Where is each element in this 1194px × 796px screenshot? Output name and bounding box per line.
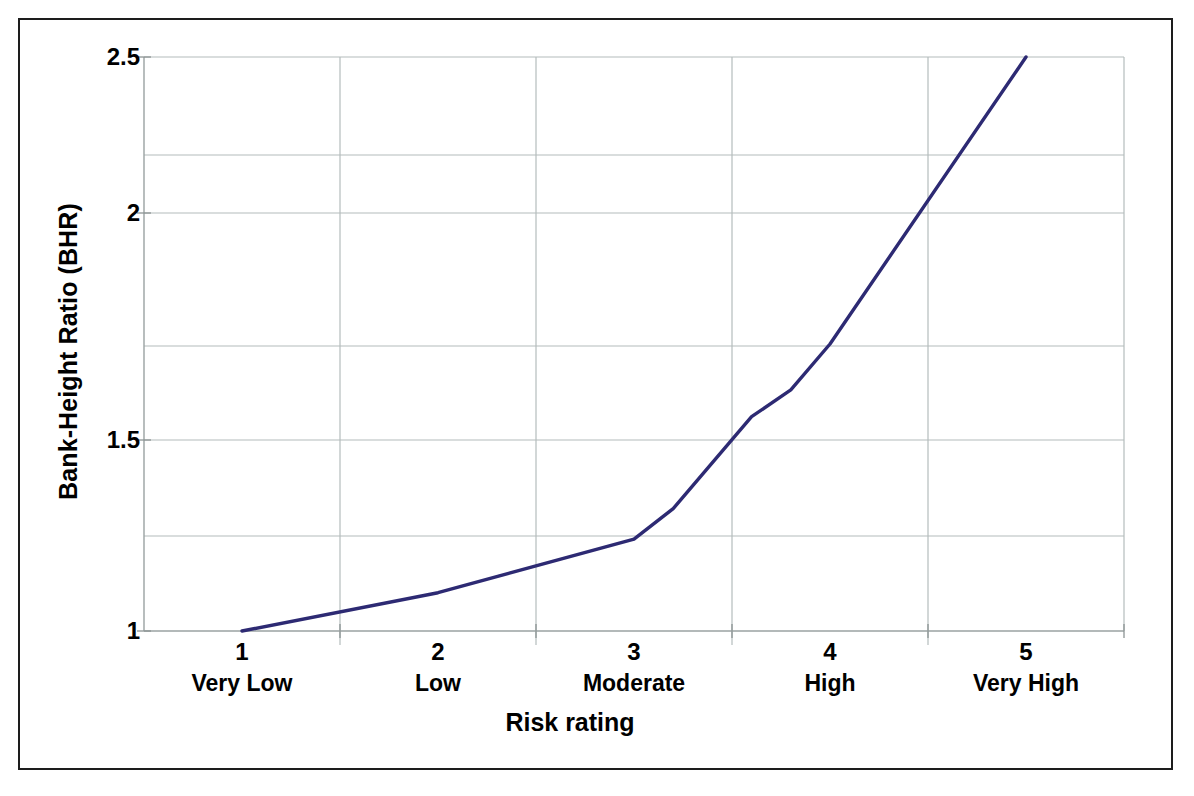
x-tick-name-2: Low <box>333 667 543 699</box>
x-tick-group-3: 3 Moderate <box>529 637 739 699</box>
x-axis-tick-labels: 1 Very Low 2 Low 3 Moderate 4 High 5 Ver… <box>20 20 1171 768</box>
x-axis-title: Risk rating <box>20 708 1120 737</box>
x-tick-name-1: Very Low <box>137 667 347 699</box>
x-tick-number-3: 3 <box>529 637 739 667</box>
x-tick-group-2: 2 Low <box>333 637 543 699</box>
x-tick-group-1: 1 Very Low <box>137 637 347 699</box>
y-axis-title: Bank-Height Ratio (BHR) <box>54 82 83 622</box>
x-tick-name-4: High <box>725 667 935 699</box>
chart-figure-frame: 2.5 2 1.5 1 1 Very Low 2 Low 3 Moderate … <box>18 18 1173 770</box>
x-tick-number-2: 2 <box>333 637 543 667</box>
x-tick-number-5: 5 <box>921 637 1131 667</box>
x-tick-number-4: 4 <box>725 637 935 667</box>
x-tick-group-4: 4 High <box>725 637 935 699</box>
x-tick-number-1: 1 <box>137 637 347 667</box>
x-tick-name-5: Very High <box>921 667 1131 699</box>
x-tick-name-3: Moderate <box>529 667 739 699</box>
x-tick-group-5: 5 Very High <box>921 637 1131 699</box>
